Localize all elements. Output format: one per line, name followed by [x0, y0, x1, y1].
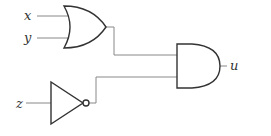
or-gate [64, 6, 106, 48]
wire-not-to-and [89, 77, 177, 103]
wire-or-to-and [106, 27, 177, 55]
and-gate [177, 44, 220, 88]
output-label-u: u [230, 58, 238, 73]
not-gate [51, 82, 83, 124]
not-gate-bubble [83, 100, 89, 106]
input-label-z: z [15, 96, 23, 111]
input-label-y: y [23, 30, 32, 45]
logic-circuit-diagram: x y z u [0, 0, 271, 136]
input-label-x: x [24, 8, 32, 23]
